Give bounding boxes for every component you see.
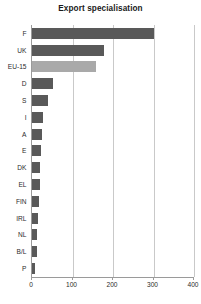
category-label: I [0, 109, 29, 126]
bar [32, 145, 41, 156]
category-label: F [0, 25, 29, 42]
category-label: D [0, 75, 29, 92]
x-tick-mark [153, 277, 154, 280]
x-tick-mark [193, 277, 194, 280]
category-label: UK [0, 42, 29, 59]
bar [32, 179, 40, 190]
bar-row [32, 243, 194, 260]
bar [32, 28, 154, 39]
category-axis-labels: FUKEU-15DSIAEDKELFINIRLNLB/LP [0, 25, 29, 277]
bar [32, 162, 40, 173]
bar [32, 263, 35, 274]
bar [32, 45, 104, 56]
x-tick-label: 300 [147, 281, 158, 288]
category-label: E [0, 143, 29, 160]
bar-row [32, 260, 194, 277]
chart-title: Export specialisation [0, 4, 201, 13]
bar [32, 196, 39, 207]
x-tick-label: 400 [187, 281, 198, 288]
bar-row [32, 59, 194, 76]
category-label: FIN [0, 193, 29, 210]
category-label: IRL [0, 210, 29, 227]
bar-chart: Export specialisation FUKEU-15DSIAEDKELF… [0, 0, 201, 304]
bar-row [32, 42, 194, 59]
x-tick-label: 100 [66, 281, 77, 288]
bar-row [32, 210, 194, 227]
bar-row [32, 159, 194, 176]
category-label: EU-15 [0, 59, 29, 76]
category-label: P [0, 260, 29, 277]
bar [32, 112, 43, 123]
bar-row [32, 143, 194, 160]
bar-series [32, 25, 194, 277]
x-tick-mark [72, 277, 73, 280]
bar [32, 213, 38, 224]
bar [32, 129, 42, 140]
bar-row [32, 109, 194, 126]
bar [32, 246, 37, 257]
x-tick-label: 200 [106, 281, 117, 288]
bar [32, 229, 37, 240]
bar [32, 78, 53, 89]
plot-area [31, 25, 194, 278]
x-tick-mark [112, 277, 113, 280]
bar-row [32, 227, 194, 244]
category-label: DK [0, 159, 29, 176]
bar-row [32, 75, 194, 92]
bar [32, 95, 48, 106]
category-label: NL [0, 227, 29, 244]
category-label: B/L [0, 243, 29, 260]
bar-row [32, 126, 194, 143]
category-label: S [0, 92, 29, 109]
x-tick-mark [31, 277, 32, 280]
gridline [194, 25, 195, 277]
bar [32, 61, 96, 72]
category-label: EL [0, 176, 29, 193]
bar-row [32, 193, 194, 210]
bar-row [32, 92, 194, 109]
category-label: A [0, 126, 29, 143]
bar-row [32, 176, 194, 193]
x-tick-label: 0 [29, 281, 33, 288]
bar-row [32, 25, 194, 42]
